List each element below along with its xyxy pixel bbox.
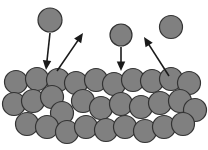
free-particle [38,8,62,32]
bulk-particle [5,71,28,94]
figure-canvas [0,0,208,150]
free-particle [110,24,132,46]
bulk-particle [149,92,172,115]
bulk-particle [172,113,195,136]
bulk-particle [75,116,98,139]
bulk-particle [16,113,39,136]
free-particle [160,16,183,39]
bulk-particle [36,116,59,139]
bulk-particle-layer [3,68,207,144]
bulk-particle [110,93,133,116]
bulk-particle [90,97,113,120]
particle-deposition-figure [0,0,208,150]
bulk-particle [26,68,49,91]
bulk-particle [114,116,137,139]
